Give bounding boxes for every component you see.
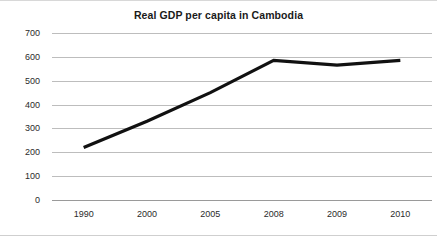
x-axis-tick-label: 2005 (180, 209, 240, 219)
y-axis-tick-label: 500 (0, 76, 40, 86)
x-axis-tick-label: 2000 (117, 209, 177, 219)
series-polyline (84, 60, 401, 147)
x-axis-tick-label: 1990 (54, 209, 114, 219)
y-axis-tick-label: 200 (0, 147, 40, 157)
y-axis-tick-label: 300 (0, 123, 40, 133)
y-axis-tick-label: 100 (0, 171, 40, 181)
y-axis-tick-label: 400 (0, 100, 40, 110)
gridline (52, 200, 432, 201)
y-axis-tick-label: 600 (0, 52, 40, 62)
data-series-line (52, 33, 432, 200)
chart-container: Real GDP per capita in Cambodia 70060050… (0, 0, 437, 236)
y-axis-tick-label: 700 (0, 28, 40, 38)
y-axis-tick-label: 0 (0, 195, 40, 205)
x-axis-tick-label: 2009 (307, 209, 367, 219)
x-axis-tick-label: 2010 (370, 209, 430, 219)
chart-title: Real GDP per capita in Cambodia (0, 9, 437, 21)
plot-area: 7006005004003002001000 19902000200520082… (52, 33, 432, 200)
x-axis-tick-label: 2008 (244, 209, 304, 219)
